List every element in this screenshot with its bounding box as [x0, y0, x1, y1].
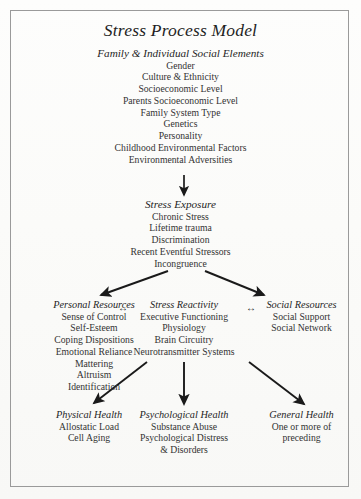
list-item: Social Support — [249, 311, 354, 323]
list-item: Incongruence — [0, 258, 361, 270]
inputs-block: Family & Individual Social Elements Gend… — [0, 47, 361, 166]
general-health-header: General Health — [249, 409, 354, 421]
list-item: Childhood Environmental Factors — [0, 142, 361, 154]
stress-process-model-figure: Stress Process Model Family & Individual… — [0, 0, 361, 499]
list-item: Gender — [0, 60, 361, 72]
list-item: Parents Socioeconomic Level — [0, 95, 361, 107]
list-item: Substance Abuse — [114, 421, 254, 433]
stress-exposure-header: Stress Exposure — [0, 198, 361, 211]
stress-reactivity-list: Executive Functioning Physiology Brain C… — [114, 311, 254, 358]
stress-reactivity-header: Stress Reactivity — [114, 299, 254, 311]
stress-exposure-list: Chronic Stress Lifetime trauma Discrimin… — [0, 211, 361, 270]
list-item: Mattering — [14, 358, 174, 370]
list-item: Environmental Adversities — [0, 154, 361, 166]
list-item: Personality — [0, 130, 361, 142]
list-item: Lifetime trauma — [0, 222, 361, 234]
list-item: Recent Eventful Stressors — [0, 246, 361, 258]
list-item: Discrimination — [0, 234, 361, 246]
general-health-block: General Health One or more of preceding — [249, 409, 354, 444]
list-item: Culture & Ethnicity — [0, 71, 361, 83]
social-resources-block: Social Resources Social Support Social N… — [249, 299, 354, 334]
social-resources-header: Social Resources — [249, 299, 354, 311]
list-item: Socioeconomic Level — [0, 83, 361, 95]
list-item: Identification — [14, 381, 174, 393]
social-resources-list: Social Support Social Network — [249, 311, 354, 335]
psychological-health-header: Psychological Health — [114, 409, 254, 421]
figure-title: Stress Process Model — [0, 22, 361, 40]
list-item: One or more of — [249, 421, 354, 433]
list-item: Executive Functioning — [114, 311, 254, 323]
list-item: preceding — [249, 432, 354, 444]
list-item: Family System Type — [0, 107, 361, 119]
inputs-list: Gender Culture & Ethnicity Socioeconomic… — [0, 60, 361, 166]
list-item: Psychological Distress — [114, 432, 254, 444]
list-item: Social Network — [249, 322, 354, 334]
list-item: Neurotransmitter Systems — [114, 346, 254, 358]
psychological-health-block: Psychological Health Substance Abuse Psy… — [114, 409, 254, 456]
list-item: Genetics — [0, 118, 361, 130]
psychological-health-list: Substance Abuse Psychological Distress &… — [114, 421, 254, 456]
list-item: Chronic Stress — [0, 211, 361, 223]
stress-reactivity-block: Stress Reactivity Executive Functioning … — [114, 299, 254, 358]
inputs-header: Family & Individual Social Elements — [0, 47, 361, 60]
list-item: & Disorders — [114, 444, 254, 456]
list-item: Altruism — [14, 369, 174, 381]
list-item: Brain Circuitry — [114, 334, 254, 346]
list-item: Physiology — [114, 322, 254, 334]
general-health-list: One or more of preceding — [249, 421, 354, 445]
stress-exposure-block: Stress Exposure Chronic Stress Lifetime … — [0, 198, 361, 269]
